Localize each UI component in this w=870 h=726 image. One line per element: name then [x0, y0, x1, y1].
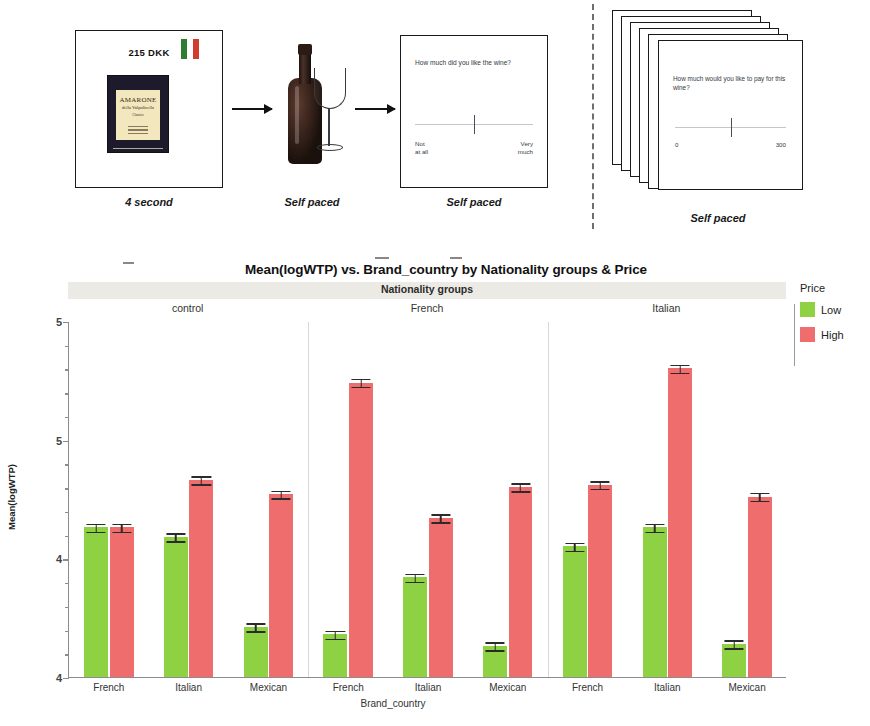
wtp-scale-marker[interactable] [731, 118, 732, 137]
bar-control-italian-high[interactable] [189, 480, 213, 677]
wine-glass-icon [314, 68, 344, 160]
wtp-scale-max: 300 [776, 141, 786, 148]
stimulus-price: 215 DKK [76, 47, 222, 58]
x-axis-tick-label: French [333, 682, 364, 693]
panel-label-french: French [307, 302, 546, 314]
y-axis-minor-tick [65, 631, 69, 632]
y-axis-minor-tick [65, 346, 69, 347]
scan-artifact-3 [450, 257, 462, 259]
stimulus-panel: 215 DKK AMARONE della Valpolicella Class… [75, 30, 223, 188]
bar-control-french-high[interactable] [110, 527, 134, 677]
panel-strip-title: Nationality groups [68, 283, 786, 295]
bar-italian-italian-low[interactable] [643, 527, 667, 677]
wine-brand-text: AMARONE [116, 96, 160, 104]
bar-control-french-low[interactable] [84, 527, 108, 677]
bar-french-mexican-high[interactable] [509, 487, 533, 677]
panel-separator [308, 322, 309, 677]
bottle-caption: Self paced [262, 196, 362, 208]
wine-label-fineprint [128, 126, 148, 136]
error-bar [565, 543, 584, 552]
bar-italian-french-high[interactable] [588, 485, 612, 677]
section-divider [592, 4, 594, 229]
wine-label-image: AMARONE della Valpolicella Classico [107, 75, 169, 153]
wtp-caption: Self paced [628, 212, 808, 224]
experiment-trial-diagram: 215 DKK AMARONE della Valpolicella Class… [0, 0, 870, 245]
legend-label-high: High [821, 329, 844, 341]
bar-chart: Mean(logWTP) vs. Brand_country by Nation… [0, 252, 870, 726]
error-bar [272, 491, 291, 500]
bar-control-mexican-high[interactable] [269, 494, 293, 677]
y-axis-minor-tick [65, 607, 69, 608]
arrow-right-icon-1 [232, 108, 272, 110]
liking-rating-panel: How much did you like the wine? Not at a… [400, 35, 548, 188]
scan-artifact-1 [123, 262, 134, 264]
bottle-panel [272, 40, 352, 175]
bar-italian-french-low[interactable] [563, 546, 587, 677]
panel-label-italian: Italian [547, 302, 786, 314]
panel-strip-header: Nationality groups [68, 282, 786, 299]
wine-label-footer-band [113, 148, 163, 149]
x-axis-tick-label: French [93, 682, 124, 693]
error-bar [246, 623, 265, 632]
y-axis-tick-label: 4 [28, 672, 69, 684]
bar-italian-italian-high[interactable] [668, 368, 692, 677]
error-bar [725, 640, 744, 649]
panel-separator [548, 322, 549, 677]
stimulus-caption: 4 second [75, 196, 223, 208]
error-bar [750, 493, 769, 502]
error-bar [192, 476, 211, 485]
legend-rule [794, 304, 795, 366]
bar-control-mexican-low[interactable] [244, 627, 268, 677]
panel-label-control: control [68, 302, 307, 314]
y-axis-tick-label: 5 [28, 435, 69, 447]
y-axis-minor-tick [65, 393, 69, 394]
x-axis-tick-label: Italian [415, 682, 442, 693]
error-bar [645, 524, 664, 533]
legend-swatch-low [800, 302, 815, 317]
x-axis-tick-label: Italian [175, 682, 202, 693]
legend-item-high[interactable]: High [800, 327, 866, 342]
liking-anchor-left: Not at all [415, 140, 428, 157]
legend-item-low[interactable]: Low [800, 302, 866, 317]
italian-flag-icon [181, 39, 199, 59]
y-axis-minor-tick [65, 488, 69, 489]
x-axis-tick-label: Mexican [489, 682, 526, 693]
wine-subtitle-text: della Valpolicella [116, 105, 160, 110]
wtp-scale-min: 0 [675, 141, 678, 148]
liking-scale-marker[interactable] [474, 115, 475, 134]
y-axis-minor-tick [65, 464, 69, 465]
chart-title: Mean(logWTP) vs. Brand_country by Nation… [176, 262, 716, 277]
error-bar [87, 524, 106, 533]
y-axis-tick-label: 4 [28, 553, 69, 565]
bar-french-french-low[interactable] [323, 634, 347, 677]
screenshot-root: 215 DKK AMARONE della Valpolicella Class… [0, 0, 870, 726]
error-bar [671, 365, 690, 374]
error-bar [511, 483, 530, 492]
y-axis-minor-tick [65, 441, 69, 442]
y-axis-minor-tick [65, 322, 69, 323]
error-bar [431, 514, 450, 523]
x-axis-title: Brand_country [0, 698, 786, 709]
panel-group-labels: controlFrenchItalian [68, 302, 786, 318]
liking-question: How much did you like the wine? [415, 59, 537, 68]
x-axis-tick-label: Mexican [250, 682, 287, 693]
plot-area: 4455FrenchItalianMexicanFrenchItalianMex… [68, 322, 786, 678]
bar-french-french-high[interactable] [349, 383, 373, 677]
y-axis-title: Mean(logWTP) [6, 464, 17, 530]
x-axis-tick-label: Italian [654, 682, 681, 693]
bar-french-italian-high[interactable] [429, 518, 453, 677]
bar-french-italian-low[interactable] [403, 577, 427, 677]
legend-label-low: Low [821, 304, 841, 316]
y-axis-tick-label: 5 [28, 316, 69, 328]
error-bar [166, 533, 185, 542]
y-axis-minor-tick [65, 583, 69, 584]
bar-control-italian-low[interactable] [164, 537, 188, 677]
x-axis-tick-label: Mexican [728, 682, 765, 693]
bar-italian-mexican-high[interactable] [748, 497, 772, 677]
legend: Price LowHigh [800, 282, 866, 352]
wtp-question-panel: How much would you like to pay for this … [658, 40, 803, 190]
error-bar [351, 379, 370, 388]
legend-swatch-high [800, 327, 815, 342]
wtp-question: How much would you like to pay for this … [673, 75, 790, 92]
arrow-right-icon-2 [355, 108, 395, 110]
